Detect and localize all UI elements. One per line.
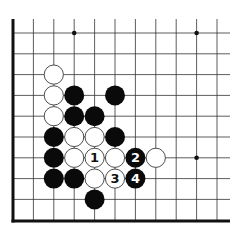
black-stone-icon [85, 189, 105, 209]
black-stone-icon [85, 106, 105, 126]
white-stone-1: 1 [85, 148, 104, 167]
white-stone [146, 148, 165, 167]
black-stone [105, 85, 125, 105]
white-stone [44, 65, 63, 84]
white-stone [85, 127, 104, 146]
black-stone [44, 127, 64, 147]
white-stone [105, 148, 124, 167]
black-stone-icon [44, 127, 64, 147]
white-stone-icon [44, 86, 63, 105]
black-stone-icon [64, 106, 84, 126]
black-stone [44, 148, 64, 168]
black-stone-4: 4 [125, 169, 145, 189]
black-stone-icon [64, 85, 84, 105]
white-stone-icon [146, 148, 165, 167]
black-stone [64, 106, 84, 126]
move-number: 4 [131, 171, 140, 186]
white-stone-icon [105, 148, 124, 167]
board-grid [12, 19, 231, 223]
black-stone-icon [105, 127, 125, 147]
black-stone [85, 189, 105, 209]
black-stone-icon [105, 85, 125, 105]
star-point-icon [194, 31, 199, 36]
white-stone-icon [44, 65, 63, 84]
white-stone-icon [85, 169, 104, 188]
black-stone-icon [44, 169, 64, 189]
white-stone-icon [85, 127, 104, 146]
move-number: 1 [90, 150, 99, 165]
star-point-icon [72, 31, 77, 36]
white-stone-3: 3 [105, 169, 124, 188]
white-stone-icon [65, 148, 84, 167]
black-stone [105, 127, 125, 147]
black-stone [85, 106, 105, 126]
move-number: 2 [131, 150, 140, 165]
black-stone [64, 169, 84, 189]
white-stone-icon [44, 107, 63, 126]
white-stone [85, 169, 104, 188]
white-stone [44, 107, 63, 126]
black-stone [64, 85, 84, 105]
white-stone [65, 127, 84, 146]
black-stone-2: 2 [125, 148, 145, 168]
move-number: 3 [110, 171, 119, 186]
white-stone [44, 86, 63, 105]
black-stone-icon [44, 148, 64, 168]
white-stone-icon [65, 127, 84, 146]
star-point-icon [194, 156, 199, 161]
black-stone-icon [64, 169, 84, 189]
white-stone [65, 148, 84, 167]
go-board: 1234 [0, 0, 243, 238]
black-stone [44, 169, 64, 189]
